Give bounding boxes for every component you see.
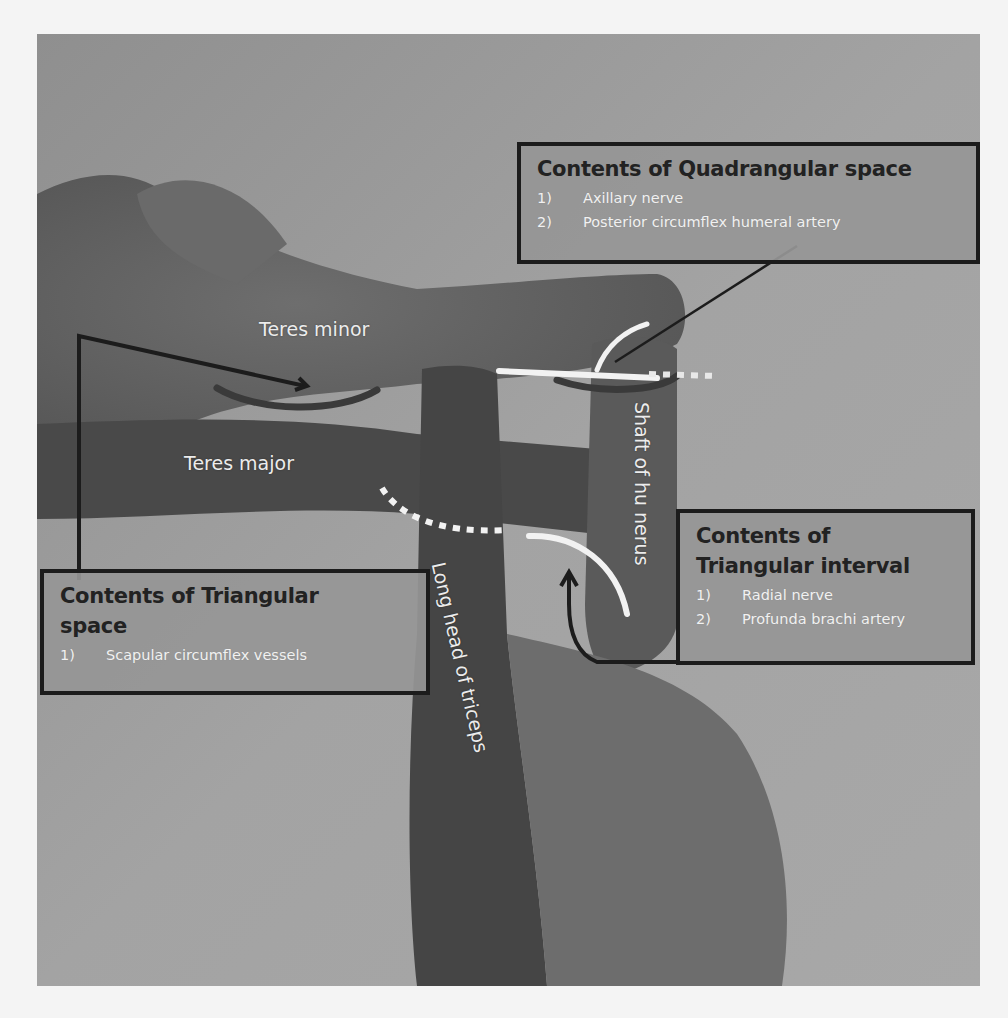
quadrangular-title: Contents of Quadrangular space <box>537 154 962 184</box>
quadrangular-space-box: Contents of Quadrangular space 1)Axillar… <box>517 142 980 264</box>
triangular-interval-box: Contents of Triangular interval 1)Radial… <box>676 509 975 665</box>
list-item: 1)Scapular circumflex vessels <box>60 643 412 667</box>
triangular-space-title-line2: space <box>60 611 412 641</box>
list-item: 2)Posterior circumflex humeral artery <box>537 210 962 234</box>
list-item: 2)Profunda brachi artery <box>696 607 957 631</box>
triangular-space-box: Contents of Triangular space 1)Scapular … <box>40 569 430 695</box>
teres-major-label: Teres major <box>184 452 294 474</box>
anatomy-photo: Teres minor Teres major Shaft of hu neru… <box>37 34 980 986</box>
shaft-humerus-label: Shaft of hu nerus <box>631 402 653 566</box>
list-item: 1)Radial nerve <box>696 583 957 607</box>
triangular-interval-title-line2: Triangular interval <box>696 551 957 581</box>
triangular-interval-title-line1: Contents of <box>696 521 957 551</box>
teres-minor-label: Teres minor <box>259 318 369 340</box>
triangular-space-title-line1: Contents of Triangular <box>60 581 412 611</box>
list-item: 1)Axillary nerve <box>537 186 962 210</box>
